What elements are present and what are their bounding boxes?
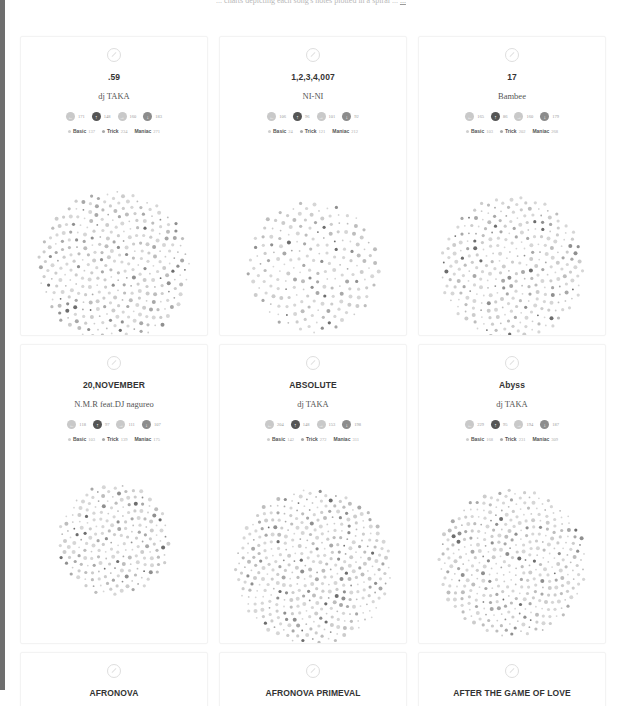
down-arrow-icon: ↓ xyxy=(142,420,151,429)
disabled-circle-icon[interactable] xyxy=(107,664,121,678)
song-title: .59 xyxy=(21,72,207,82)
arrow-stat-value: 153 xyxy=(329,422,336,427)
arrow-stat: ↓92 xyxy=(342,112,359,121)
legend-trick[interactable]: Trick121 xyxy=(300,128,325,134)
song-artist: dj TAKA xyxy=(21,91,207,101)
arrow-stats: ←171↑148→160↓183 xyxy=(21,112,207,121)
legend-maniac[interactable]: Maniac268 xyxy=(532,128,558,134)
disabled-circle-icon[interactable] xyxy=(306,664,320,678)
arrow-stat-value: 187 xyxy=(552,422,559,427)
legend-label: Trick xyxy=(305,128,317,134)
legend-dot-icon xyxy=(500,438,503,441)
legend-label: Trick xyxy=(505,436,517,442)
up-arrow-icon: ↑ xyxy=(293,112,302,121)
song-card[interactable]: 20,NOVEMBER N.M.R feat.DJ nagureo ←118↑9… xyxy=(20,344,208,644)
arrow-stat: →153 xyxy=(317,420,336,429)
legend-dot-icon xyxy=(68,438,71,441)
arrow-stat-value: 179 xyxy=(552,114,559,119)
legend-trick[interactable]: Trick139 xyxy=(102,436,127,442)
legend-trick[interactable]: Trick234 xyxy=(102,128,127,134)
difficulty-legend: Basic168Trick231Maniac309 xyxy=(419,436,605,442)
song-title: ABSOLUTE xyxy=(220,380,406,390)
song-grid: .59 dj TAKA ←171↑148→160↓183 Basic137Tri… xyxy=(20,36,606,706)
legend-dot-icon xyxy=(267,438,270,441)
legend-trick[interactable]: Trick231 xyxy=(500,436,525,442)
disabled-circle-icon[interactable] xyxy=(306,356,320,370)
legend-trick[interactable]: Trick272 xyxy=(301,436,326,442)
disabled-circle-icon[interactable] xyxy=(505,664,519,678)
arrow-stat-value: 96 xyxy=(305,114,310,119)
arrow-stat-value: 160 xyxy=(130,114,137,119)
arrow-stat-value: 171 xyxy=(78,114,85,119)
legend-label: Basic xyxy=(73,128,86,134)
arrow-stat-value: 118 xyxy=(79,422,86,427)
legend-label: Trick xyxy=(306,436,318,442)
arrow-stat-value: 111 xyxy=(128,422,134,427)
song-card[interactable]: AFTER THE GAME OF LOVE NPD3 xyxy=(418,652,606,706)
legend-maniac[interactable]: Maniac212 xyxy=(332,128,358,134)
left-arrow-icon: ← xyxy=(465,420,474,429)
legend-count: 142 xyxy=(287,437,294,442)
legend-basic[interactable]: Basic103 xyxy=(466,128,493,134)
arrow-stat: ←106 xyxy=(267,112,286,121)
up-arrow-icon: ↑ xyxy=(291,420,300,429)
legend-label: Maniac xyxy=(532,128,549,134)
legend-dot-icon xyxy=(68,130,71,133)
arrow-stats: ←229↑95→194↓187 xyxy=(419,420,605,429)
legend-basic[interactable]: Basic168 xyxy=(466,436,493,442)
legend-count: 121 xyxy=(319,129,326,134)
disabled-circle-icon[interactable] xyxy=(505,356,519,370)
right-arrow-icon: → xyxy=(118,112,127,121)
legend-maniac[interactable]: Maniac175 xyxy=(134,436,160,442)
legend-basic[interactable]: Basic24 xyxy=(268,128,293,134)
arrow-stat: →160 xyxy=(118,112,137,121)
song-card[interactable]: Abyss dj TAKA ←229↑95→194↓187 Basic168Tr… xyxy=(418,344,606,644)
arrow-stat: ←118 xyxy=(67,420,86,429)
arrow-stats: ←165↑86→160↓179 xyxy=(419,112,605,121)
legend-dot-icon xyxy=(102,438,105,441)
arrow-stat-value: 101 xyxy=(329,114,336,119)
arrow-stat-value: 165 xyxy=(477,114,484,119)
left-scroll-strip xyxy=(0,0,5,690)
intro-text: ... charts depicting each song's notes p… xyxy=(0,0,622,5)
down-arrow-icon: ↓ xyxy=(342,112,351,121)
arrow-stat: ↑97 xyxy=(93,420,110,429)
difficulty-legend: Basic103Trick139Maniac175 xyxy=(21,436,207,442)
legend-maniac[interactable]: Maniac271 xyxy=(134,128,160,134)
song-card[interactable]: ABSOLUTE dj TAKA ←204↑148→153↓198 Basic1… xyxy=(219,344,407,644)
arrow-stats: ←204↑148→153↓198 xyxy=(220,420,406,429)
disabled-circle-icon[interactable] xyxy=(505,48,519,62)
song-title: 17 xyxy=(419,72,605,82)
legend-basic[interactable]: Basic103 xyxy=(68,436,95,442)
song-artist: dj TAKA xyxy=(419,399,605,409)
arrow-stat: ←229 xyxy=(465,420,484,429)
legend-maniac[interactable]: Maniac311 xyxy=(333,436,359,442)
intro-link[interactable]: ... xyxy=(400,0,406,5)
legend-count: 309 xyxy=(551,437,558,442)
left-arrow-icon: ← xyxy=(465,112,474,121)
song-artist: dj TAKA xyxy=(220,399,406,409)
arrow-stat-value: 160 xyxy=(526,114,533,119)
disabled-circle-icon[interactable] xyxy=(107,48,121,62)
legend-trick[interactable]: Trick202 xyxy=(500,128,525,134)
song-card[interactable]: AFRONOVA PRIMEVAL 8 bit xyxy=(219,652,407,706)
legend-count: 231 xyxy=(519,437,526,442)
left-arrow-icon: ← xyxy=(67,420,76,429)
legend-count: 175 xyxy=(153,437,160,442)
legend-dot-icon xyxy=(300,130,303,133)
arrow-stat: ↓107 xyxy=(142,420,161,429)
legend-basic[interactable]: Basic142 xyxy=(267,436,294,442)
legend-maniac[interactable]: Maniac309 xyxy=(532,436,558,442)
legend-label: Maniac xyxy=(332,128,349,134)
song-card[interactable]: 1,2,3,4,007 NI-NI ←106↑96→101↓92 Basic24… xyxy=(219,36,407,336)
song-card[interactable]: 17 Bambee ←165↑86→160↓179 Basic103Trick2… xyxy=(418,36,606,336)
legend-basic[interactable]: Basic137 xyxy=(68,128,95,134)
legend-label: Basic xyxy=(471,128,484,134)
song-card[interactable]: AFRONOVA RE-VENGE xyxy=(20,652,208,706)
song-card[interactable]: .59 dj TAKA ←171↑148→160↓183 Basic137Tri… xyxy=(20,36,208,336)
disabled-circle-icon[interactable] xyxy=(107,356,121,370)
disabled-circle-icon[interactable] xyxy=(306,48,320,62)
right-arrow-icon: → xyxy=(116,420,125,429)
spiral-scatter-plot xyxy=(21,480,207,600)
legend-label: Basic xyxy=(471,436,484,442)
